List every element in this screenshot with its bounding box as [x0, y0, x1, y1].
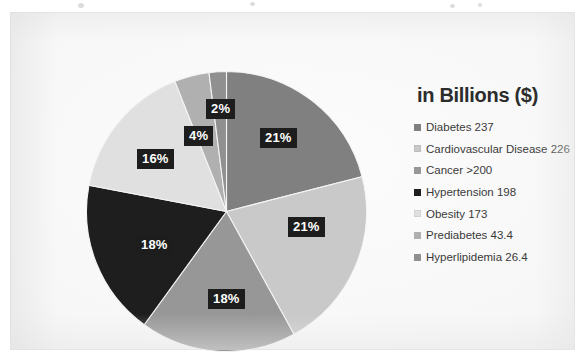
legend-item-label: Obesity 173	[426, 208, 487, 221]
scan-speck	[450, 4, 455, 8]
pie-data-label-hyperlipidemia: 2%	[206, 99, 235, 119]
legend-item[interactable]: Cancer >200	[414, 164, 585, 177]
scan-speck	[478, 3, 482, 7]
legend-item-label: Prediabetes 43.4	[426, 229, 513, 242]
pie-chart: 21% 21% 18% 18% 16% 4% 2%	[84, 69, 369, 354]
pie-data-label-cancer: 18%	[208, 289, 245, 309]
pie-data-label-diabetes: 21%	[260, 128, 297, 148]
pie-data-label-obesity: 16%	[137, 149, 174, 169]
legend-item[interactable]: Cardiovascular Disease 226	[414, 143, 585, 156]
legend-item-label: Cardiovascular Disease 226	[426, 143, 570, 156]
pie-data-label-cardiovascular: 21%	[288, 217, 325, 237]
legend-item-label: Cancer >200	[426, 164, 492, 177]
pie-data-label-prediabetes: 4%	[184, 126, 213, 146]
legend-item[interactable]: Hyperlipidemia 26.4	[414, 251, 585, 264]
legend-item-label: Hypertension 198	[426, 186, 516, 199]
slide-root: 21% 21% 18% 18% 16% 4% 2% in Billions ($…	[0, 0, 585, 362]
legend-item-label: Hyperlipidemia 26.4	[426, 251, 528, 264]
legend-color-swatch-icon	[414, 189, 421, 196]
pie-data-label-hypertension: 18%	[136, 235, 173, 255]
legend-color-swatch-icon	[414, 167, 421, 174]
legend-color-swatch-icon	[414, 210, 421, 217]
scan-speck	[250, 2, 255, 6]
scan-speck	[78, 3, 84, 8]
legend-title: in Billions ($)	[417, 84, 585, 107]
legend-item[interactable]: Hypertension 198	[414, 186, 585, 199]
legend-items: Diabetes 237Cardiovascular Disease 226Ca…	[414, 121, 585, 263]
slide-surface: 21% 21% 18% 18% 16% 4% 2% in Billions ($…	[10, 12, 575, 350]
legend-item[interactable]: Diabetes 237	[414, 121, 585, 134]
legend-color-swatch-icon	[414, 232, 421, 239]
legend-color-swatch-icon	[414, 124, 421, 131]
legend-item[interactable]: Obesity 173	[414, 208, 585, 221]
legend-color-swatch-icon	[414, 145, 421, 152]
legend-item-label: Diabetes 237	[426, 121, 494, 134]
legend-color-swatch-icon	[414, 254, 421, 261]
chart-legend: in Billions ($) Diabetes 237Cardiovascul…	[414, 84, 585, 272]
legend-item[interactable]: Prediabetes 43.4	[414, 229, 585, 242]
